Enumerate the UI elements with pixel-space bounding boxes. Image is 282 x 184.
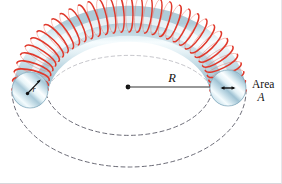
toroid-figure: r R Area A [0,0,282,184]
area-label-line1: Area [252,78,274,90]
right-cross-section [210,70,246,106]
left-cross-section-disk [12,72,48,108]
inner-dashed-arc [46,92,212,135]
left-cross-section: r [12,72,48,108]
area-label-line2: A [256,91,265,103]
toroid-diagram-svg: r R Area A [0,0,282,184]
area-label-group: Area A [252,78,274,103]
outer-dashed-arc [12,90,246,167]
major-radius-label: R [167,71,176,85]
